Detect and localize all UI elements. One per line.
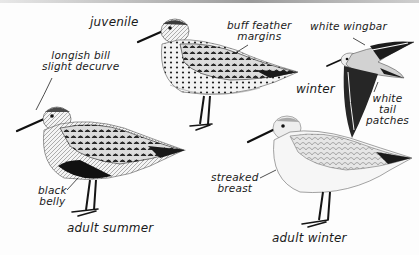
pointer-buff-feather [237,45,248,52]
label-black-belly: black belly [38,185,67,207]
label-winter: winter [296,84,335,95]
label-juvenile: juvenile [90,17,139,28]
field-guide-plate: juvenile longish bill slight decurve buf… [0,0,419,255]
pointer-white-wingbar [353,38,365,45]
label-white-tail-patches: white tail patches [366,93,409,126]
label-white-wingbar: white wingbar [310,21,387,32]
pointer-black-belly [67,178,78,190]
label-adult-summer: adult summer [67,223,153,234]
label-streaked-breast: streaked breast [211,172,259,194]
bird-illustrations [0,0,419,255]
label-buff-feather-margins: buff feather margins [227,20,292,42]
pointer-longish-bill [36,78,52,110]
label-longish-bill: longish bill slight decurve [42,50,119,72]
pointer-streaked-breast [260,170,276,178]
label-adult-winter: adult winter [272,233,347,244]
